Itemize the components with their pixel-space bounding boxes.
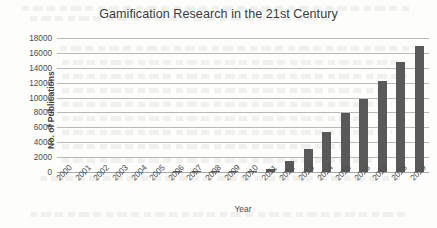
bar-chart: Gamification Research in the 21st Centur… [0,0,437,228]
bar-slot-2007 [187,38,206,172]
x-label-slot-2004: 2004 [131,173,150,203]
bar-slot-2018 [392,38,411,172]
bar-2019 [415,46,424,172]
x-label-slot-2018: 2018 [392,173,411,203]
x-label-slot-2003: 2003 [113,173,132,203]
bar-slot-2000 [57,38,76,172]
x-label-slot-2017: 2017 [373,173,392,203]
bar-slot-2011 [262,38,281,172]
y-tick-label-18000: 18000 [29,34,52,43]
bar-slot-2002 [94,38,113,172]
x-axis-tick-labels: 2000200120022003200420052006200720082009… [57,173,429,203]
x-label-slot-2012: 2012 [280,173,299,203]
bar-slot-2013 [299,38,318,172]
x-label-slot-2001: 2001 [76,173,95,203]
x-axis-title: Year [57,204,429,214]
x-label-slot-2000: 2000 [57,173,76,203]
bar-slot-2001 [76,38,95,172]
bar-slot-2004 [131,38,150,172]
x-label-slot-2007: 2007 [187,173,206,203]
bar-slot-2009 [224,38,243,172]
x-label-slot-2008: 2008 [206,173,225,203]
y-tick-label-16000: 16000 [29,48,52,57]
y-tick-label-6000: 6000 [34,123,52,132]
bar-2016 [359,99,368,172]
bar-series [57,38,429,172]
bar-2017 [378,81,387,172]
bar-slot-2016 [355,38,374,172]
bar-slot-2006 [169,38,188,172]
bar-slot-2008 [206,38,225,172]
bar-slot-2015 [336,38,355,172]
x-label-slot-2019: 2019 [410,173,429,203]
chart-title: Gamification Research in the 21st Centur… [0,7,437,21]
x-label-slot-2016: 2016 [355,173,374,203]
x-label-slot-2014: 2014 [317,173,336,203]
x-label-slot-2002: 2002 [94,173,113,203]
bar-slot-2010 [243,38,262,172]
y-tick-label-2000: 2000 [34,153,52,162]
x-label-slot-2006: 2006 [169,173,188,203]
bar-slot-2017 [373,38,392,172]
x-label-slot-2009: 2009 [224,173,243,203]
x-label-slot-2010: 2010 [243,173,262,203]
x-label-slot-2013: 2013 [299,173,318,203]
bar-slot-2012 [280,38,299,172]
y-tick-label-12000: 12000 [29,78,52,87]
x-label-slot-2005: 2005 [150,173,169,203]
bar-slot-2005 [150,38,169,172]
x-label-slot-2015: 2015 [336,173,355,203]
y-tick-label-0: 0 [47,168,52,177]
bar-2018 [396,62,405,172]
plot-area: 1800016000140001200010000800060004000200… [57,38,429,172]
bar-slot-2019 [410,38,429,172]
y-tick-label-14000: 14000 [29,63,52,72]
y-tick-label-8000: 8000 [34,108,52,117]
y-tick-label-10000: 10000 [29,93,52,102]
bar-slot-2014 [317,38,336,172]
y-tick-label-4000: 4000 [34,138,52,147]
bar-slot-2003 [113,38,132,172]
x-label-slot-2011: 2011 [262,173,281,203]
